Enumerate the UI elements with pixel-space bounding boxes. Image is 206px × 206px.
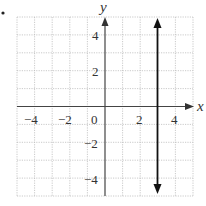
x-tick-label: −2 [58, 112, 72, 127]
y-tick-label: 4 [92, 28, 99, 43]
y-tick-label: −2 [84, 136, 98, 151]
y-tick-label: −4 [84, 172, 98, 187]
y-axis-label: y [98, 0, 107, 15]
y-tick-label: 2 [92, 64, 99, 79]
x-tick-label: 2 [136, 112, 143, 127]
down-arrow-icon [154, 184, 162, 194]
x-tick-label: 0 [91, 112, 98, 127]
x-axis-label: x [196, 98, 204, 114]
up-arrow-icon [154, 18, 162, 28]
x-tick-label: 4 [171, 112, 178, 127]
coordinate-plane: x y −4 −2 0 2 4 4 2 −2 −4 [0, 0, 206, 206]
y-tick-labels: 4 2 −2 −4 [84, 28, 99, 187]
y-axis-arrow-icon [102, 17, 109, 26]
bullet-dot [1, 11, 4, 14]
x-tick-label: −4 [24, 112, 38, 127]
